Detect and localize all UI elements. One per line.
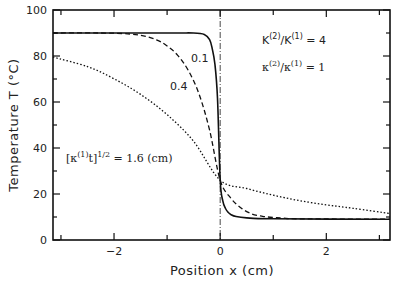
temperature-profile-chart: −202020406080100 Position x (cm) Tempera…: [0, 0, 396, 283]
curve-label-0-4: 0.4: [170, 80, 188, 93]
x-axis-title: Position x (cm): [170, 263, 274, 278]
conductivity-ratio-annotation: K(2)/K(1) = 4: [262, 32, 326, 47]
curve-label-0-1: 0.1: [191, 52, 209, 65]
diffusion-length-annotation: [κ(1)t]1/2 = 1.6 (cm): [66, 150, 172, 165]
plot-area: [53, 10, 390, 240]
y-tick-label: 20: [33, 188, 47, 201]
y-tick-label: 0: [40, 234, 47, 247]
series-line-0-1: [53, 33, 390, 219]
diffusivity-ratio-annotation: κ(2)/κ(1) = 1: [262, 59, 325, 74]
x-tick-label: 2: [323, 245, 330, 258]
x-tick-label: −2: [106, 245, 122, 258]
x-tick-label: 0: [217, 245, 224, 258]
y-tick-label: 60: [33, 96, 47, 109]
y-tick-label: 40: [33, 142, 47, 155]
y-axis-title: Temperature T (°C): [6, 58, 21, 192]
y-tick-label: 100: [26, 4, 47, 17]
y-tick-label: 80: [33, 50, 47, 63]
plot-frame: [53, 10, 390, 240]
